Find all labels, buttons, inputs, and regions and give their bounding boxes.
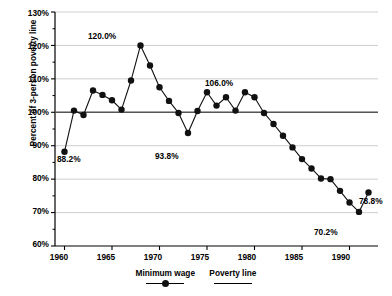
series-minimum-wage-line (65, 45, 369, 211)
data-point-1982 (270, 121, 276, 127)
annotation-70-2: 70.2% (314, 228, 338, 236)
data-point-1979 (242, 89, 248, 95)
legend-swatch-minimum-wage (136, 279, 195, 288)
data-point-1968 (137, 42, 143, 48)
annotation-106-0: 106.0% (205, 79, 233, 87)
annotation-88-2: 88.2% (57, 155, 81, 163)
plot-area (0, 0, 392, 296)
data-point-1983 (280, 132, 286, 138)
data-point-1966 (118, 106, 124, 112)
data-point-1977 (223, 94, 229, 100)
data-point-1987 (318, 175, 324, 181)
data-point-1971 (166, 98, 172, 104)
legend-swatch-poverty-line (209, 279, 256, 288)
annotation-120-0: 120.0% (88, 32, 116, 40)
data-point-1972 (175, 110, 181, 116)
data-point-1965 (109, 97, 115, 103)
data-point-1973 (185, 130, 191, 136)
data-point-1985 (299, 156, 305, 162)
chart-container: Percent of 3-person poverty line 130% 12… (0, 0, 392, 296)
data-point-1986 (308, 165, 314, 171)
data-point-1989 (337, 188, 343, 194)
data-point-1964 (99, 92, 105, 98)
data-point-1991 (356, 209, 362, 215)
data-point-1970 (156, 84, 162, 90)
data-point-1978 (232, 107, 238, 113)
data-point-1962 (80, 112, 86, 118)
legend-label-poverty-line: Poverty line (209, 268, 256, 279)
legend-label-minimum-wage: Minimum wage (136, 268, 195, 279)
legend-item-poverty-line: Poverty line (209, 268, 256, 288)
legend-line-icon (214, 283, 252, 284)
data-point-1969 (147, 62, 153, 68)
data-point-1976 (213, 102, 219, 108)
legend-item-minimum-wage: Minimum wage (136, 268, 195, 288)
data-point-1961 (71, 107, 77, 113)
chart-legend: Minimum wage Poverty line (0, 268, 392, 288)
data-point-1984 (289, 144, 295, 150)
annotation-93-8: 93.8% (155, 152, 179, 160)
data-point-1990 (346, 199, 352, 205)
annotation-78-8: 78.8% (359, 197, 383, 205)
legend-dot-icon (162, 280, 169, 287)
data-point-1981 (261, 110, 267, 116)
data-point-1975 (204, 89, 210, 95)
data-point-1992 (365, 189, 371, 195)
data-point-1974 (194, 108, 200, 114)
data-point-1963 (90, 87, 96, 93)
data-point-1988 (327, 176, 333, 182)
data-point-1967 (128, 77, 134, 83)
data-point-1980 (251, 94, 257, 100)
